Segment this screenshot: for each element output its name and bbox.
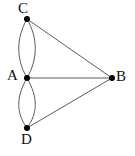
- vertex-c: [24, 16, 30, 22]
- edge-d-b: [27, 78, 112, 128]
- vertex-label-b: B: [116, 69, 126, 84]
- vertex-label-a: A: [7, 68, 18, 83]
- vertex-label-c: C: [18, 1, 28, 16]
- edge-a-d-left: [19, 78, 27, 128]
- edge-a-d-right: [27, 78, 35, 128]
- edge-c-a-left: [19, 19, 27, 78]
- vertex-label-d: D: [21, 132, 32, 147]
- edge-c-b: [27, 19, 112, 78]
- edge-c-a-right: [27, 19, 35, 78]
- graph-figure: C A B D: [0, 0, 135, 156]
- vertex-b: [109, 75, 115, 81]
- vertex-a: [24, 75, 30, 81]
